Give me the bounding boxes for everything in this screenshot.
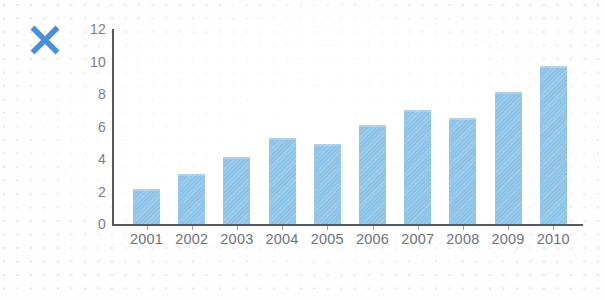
- y-tick-label: 8: [80, 87, 106, 101]
- x-tick-label: 2009: [486, 232, 530, 248]
- x-tick-label: 2005: [305, 232, 349, 248]
- y-tick-label: 2: [80, 185, 106, 199]
- bar-top-highlight: [495, 92, 522, 94]
- bar: [495, 92, 522, 224]
- x-tick-mark: [282, 226, 283, 230]
- plot-area: 024681012 200120022003200420052006200720…: [0, 0, 605, 300]
- x-tick-label: 2002: [170, 232, 214, 248]
- bar: [178, 174, 205, 224]
- bar-top-highlight: [449, 118, 476, 120]
- bar-top-highlight: [404, 110, 431, 112]
- x-tick-label: 2006: [351, 232, 395, 248]
- y-tick-label: 12: [80, 22, 106, 36]
- y-axis-line: [112, 29, 114, 226]
- bar-top-highlight: [269, 138, 296, 140]
- bar-top-highlight: [540, 66, 567, 68]
- bar: [449, 118, 476, 224]
- bar-top-highlight: [133, 189, 160, 191]
- y-axis-tick-labels: 024681012: [76, 0, 106, 300]
- y-tick-label: 0: [80, 217, 106, 231]
- x-tick-mark: [327, 226, 328, 230]
- x-tick-mark: [553, 226, 554, 230]
- y-tick-label: 10: [80, 55, 106, 69]
- x-tick-mark: [373, 226, 374, 230]
- bar: [269, 138, 296, 224]
- bar: [133, 189, 160, 224]
- bar: [540, 66, 567, 224]
- bar: [314, 144, 341, 224]
- x-tick-label: 2004: [260, 232, 304, 248]
- bar: [404, 110, 431, 224]
- bar-top-highlight: [223, 157, 250, 159]
- bar: [359, 125, 386, 224]
- x-tick-label: 2007: [396, 232, 440, 248]
- chart-figure: 024681012 200120022003200420052006200720…: [0, 0, 605, 300]
- x-tick-mark: [192, 226, 193, 230]
- y-tick-label: 4: [80, 152, 106, 166]
- x-tick-label: 2010: [531, 232, 575, 248]
- x-tick-label: 2001: [125, 232, 169, 248]
- bar-top-highlight: [314, 144, 341, 146]
- x-tick-mark: [418, 226, 419, 230]
- bar-top-highlight: [359, 125, 386, 127]
- x-tick-mark: [508, 226, 509, 230]
- x-axis-line: [112, 224, 583, 226]
- x-tick-label: 2003: [215, 232, 259, 248]
- bar: [223, 157, 250, 224]
- y-tick-label: 6: [80, 120, 106, 134]
- x-tick-mark: [463, 226, 464, 230]
- x-tick-label: 2008: [441, 232, 485, 248]
- x-tick-mark: [147, 226, 148, 230]
- x-tick-mark: [237, 226, 238, 230]
- bar-top-highlight: [178, 174, 205, 176]
